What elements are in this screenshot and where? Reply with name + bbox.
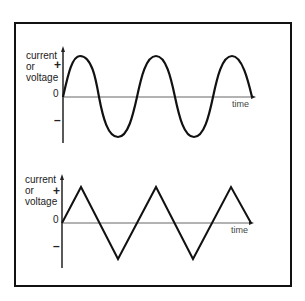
ylabel-line-1: current	[26, 51, 57, 61]
ylabel-line-3: voltage	[26, 73, 58, 83]
ylabel-line-3: voltage	[25, 197, 57, 207]
minus-label: –	[54, 114, 61, 126]
plus-label: +	[54, 59, 61, 71]
triangle-graph	[60, 174, 254, 268]
waveform-diagram	[0, 0, 305, 301]
y-axis-arrow-icon	[61, 46, 65, 52]
plus-label: +	[53, 185, 60, 197]
minus-label: –	[53, 240, 60, 252]
x-label-time: time	[232, 100, 249, 109]
ylabel-line-2: or	[25, 186, 34, 196]
x-label-time: time	[231, 226, 248, 235]
y-axis-arrow-icon	[60, 174, 64, 180]
ylabel-line-1: current	[25, 175, 56, 185]
zero-label: 0	[53, 89, 59, 99]
zero-label: 0	[53, 215, 59, 225]
sine-graph	[61, 46, 256, 143]
ylabel-line-2: or	[26, 62, 35, 72]
